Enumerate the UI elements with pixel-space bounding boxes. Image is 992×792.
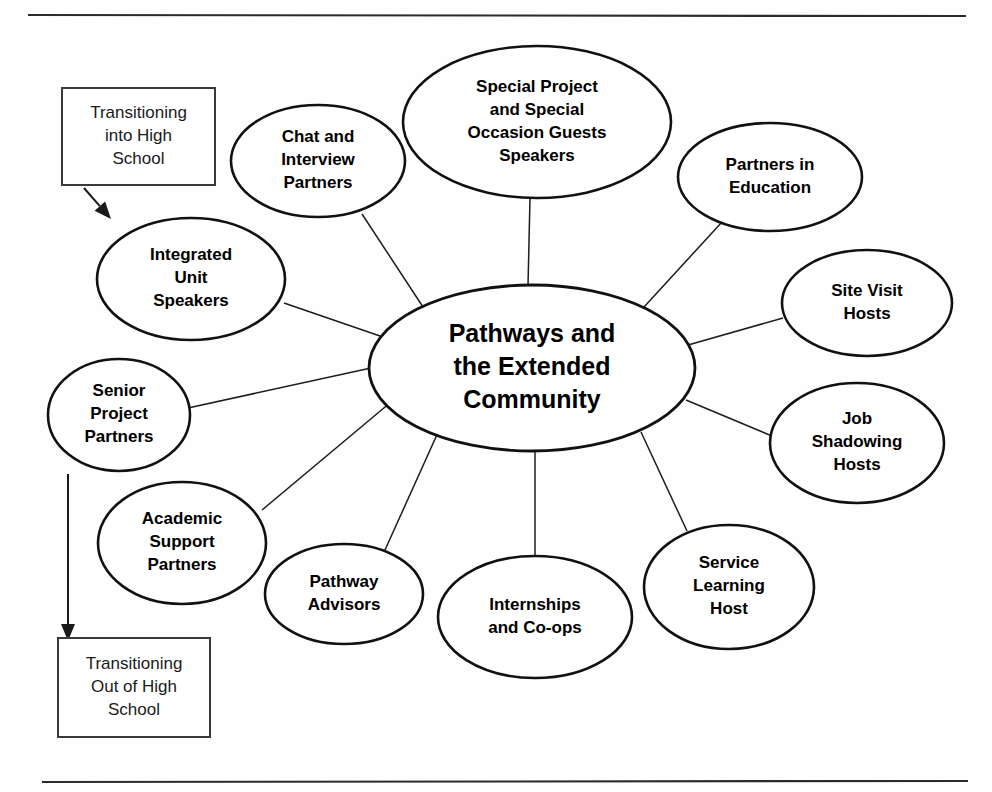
node-chat-and-interview-partners[interactable]: Chat andInterviewPartners — [231, 105, 405, 217]
connector-special-project-and-special-occasion-guests-speakers — [528, 198, 530, 286]
node-label-integrated-unit-speakers: Integrated — [150, 245, 232, 264]
center-node-label: Pathways and — [449, 319, 616, 347]
node-label-service-learning-host: Host — [710, 599, 748, 618]
node-label-senior-project-partners: Partners — [85, 427, 154, 446]
connector-chat-and-interview-partners — [362, 214, 425, 310]
node-label-special-project-and-special-occasion-guests-speakers: Special Project — [476, 77, 598, 96]
node-label-academic-support-partners: Partners — [148, 555, 217, 574]
node-label-chat-and-interview-partners: Partners — [284, 173, 353, 192]
node-label-pathway-advisors: Pathway — [310, 572, 380, 591]
node-service-learning-host[interactable]: ServiceLearningHost — [644, 525, 814, 649]
node-label-job-shadowing-hosts: Shadowing — [812, 432, 903, 451]
box-label-transitioning-into-high-school: into High — [105, 126, 172, 145]
box-label-transitioning-into-high-school: School — [113, 149, 165, 168]
node-pathway-advisors[interactable]: PathwayAdvisors — [265, 544, 423, 644]
node-label-service-learning-host: Learning — [693, 576, 765, 595]
box-label-transitioning-out-of-high-school: Transitioning — [86, 654, 183, 673]
node-job-shadowing-hosts[interactable]: JobShadowingHosts — [770, 383, 944, 503]
box-label-transitioning-out-of-high-school: School — [108, 700, 160, 719]
node-label-internships-and-co-ops: and Co-ops — [488, 618, 582, 637]
node-label-site-visit-hosts: Hosts — [843, 304, 890, 323]
node-special-project-and-special-occasion-guests-speakers[interactable]: Special Projectand SpecialOccasion Guest… — [403, 46, 671, 198]
arrow-into-high-school — [84, 188, 111, 219]
node-label-service-learning-host: Service — [699, 553, 760, 572]
node-label-academic-support-partners: Academic — [142, 509, 222, 528]
node-internships-and-co-ops[interactable]: Internshipsand Co-ops — [438, 556, 632, 678]
box-label-transitioning-out-of-high-school: Out of High — [91, 677, 177, 696]
arrow-out-of-high-school — [61, 474, 75, 641]
top-rule — [28, 15, 966, 16]
node-label-integrated-unit-speakers: Unit — [174, 268, 207, 287]
arrow-shaft — [84, 188, 100, 206]
node-label-chat-and-interview-partners: Interview — [281, 150, 355, 169]
node-label-site-visit-hosts: Site Visit — [831, 281, 903, 300]
node-label-special-project-and-special-occasion-guests-speakers: Occasion Guests — [468, 123, 607, 142]
node-center-center[interactable]: Pathways andthe ExtendedCommunity — [369, 285, 695, 451]
node-label-academic-support-partners: Support — [149, 532, 214, 551]
center-node: Pathways andthe ExtendedCommunity — [369, 285, 695, 451]
node-label-job-shadowing-hosts: Hosts — [833, 455, 880, 474]
node-academic-support-partners[interactable]: AcademicSupportPartners — [98, 482, 266, 604]
node-integrated-unit-speakers[interactable]: IntegratedUnitSpeakers — [97, 218, 285, 340]
diagram-page: Transitioninginto HighSchoolTransitionin… — [0, 0, 992, 792]
node-label-special-project-and-special-occasion-guests-speakers: and Special — [490, 100, 584, 119]
node-label-partners-in-education: Education — [729, 178, 811, 197]
connector-job-shadowing-hosts — [686, 400, 772, 436]
connector-academic-support-partners — [262, 402, 391, 510]
node-label-integrated-unit-speakers: Speakers — [153, 291, 229, 310]
connector-senior-project-partners — [188, 368, 371, 408]
connector-partners-in-education — [644, 222, 722, 307]
connector-pathway-advisors — [385, 428, 440, 550]
node-label-special-project-and-special-occasion-guests-speakers: Speakers — [499, 146, 575, 165]
connector-integrated-unit-speakers — [284, 303, 380, 336]
node-label-senior-project-partners: Project — [90, 404, 148, 423]
node-senior-project-partners[interactable]: SeniorProjectPartners — [48, 359, 190, 471]
box-transitioning-into-high-school[interactable]: Transitioninginto HighSchool — [62, 88, 215, 185]
node-site-visit-hosts[interactable]: Site VisitHosts — [782, 250, 952, 356]
node-label-chat-and-interview-partners: Chat and — [282, 127, 355, 146]
diagram-canvas: Transitioninginto HighSchoolTransitionin… — [0, 0, 992, 792]
connector-service-learning-host — [641, 432, 687, 531]
box-label-transitioning-into-high-school: Transitioning — [90, 103, 187, 122]
connector-site-visit-hosts — [688, 318, 783, 345]
center-node-label: the Extended — [454, 352, 611, 380]
box-transitioning-out-of-high-school[interactable]: TransitioningOut of HighSchool — [58, 638, 210, 737]
center-node-label: Community — [463, 385, 601, 413]
node-label-job-shadowing-hosts: Job — [842, 409, 872, 428]
node-label-pathway-advisors: Advisors — [308, 595, 381, 614]
node-partners-in-education[interactable]: Partners inEducation — [678, 123, 862, 231]
node-label-senior-project-partners: Senior — [93, 381, 146, 400]
node-label-internships-and-co-ops: Internships — [489, 595, 581, 614]
bottom-rule — [42, 781, 968, 782]
node-label-partners-in-education: Partners in — [726, 155, 815, 174]
